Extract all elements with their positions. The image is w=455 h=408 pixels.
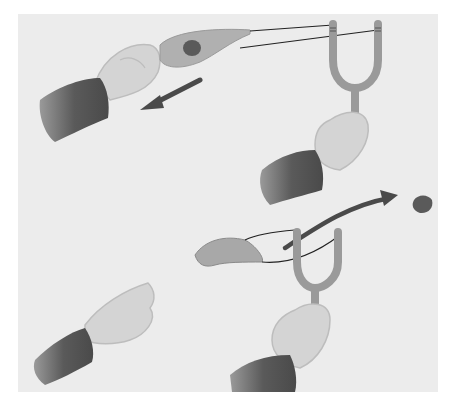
open-hand [85,283,154,344]
sleeve-left-1 [40,78,109,142]
step1-group [40,24,381,205]
sleeve-right-1 [260,150,323,205]
flying-stone-icon [413,196,433,214]
slingshot-frame-2 [297,232,338,312]
band-top [250,25,333,31]
holding-hand-1 [315,112,368,170]
released-pouch [195,238,263,266]
pouch-with-stone [160,29,250,67]
slingshot-frame-1 [330,24,381,118]
band-bottom [240,30,378,48]
sleeve-left-2 [34,328,93,385]
sleeve-right-2 [230,355,296,392]
stone-icon [183,40,201,56]
slingshot-illustration [0,0,455,408]
step2-group [34,190,432,392]
